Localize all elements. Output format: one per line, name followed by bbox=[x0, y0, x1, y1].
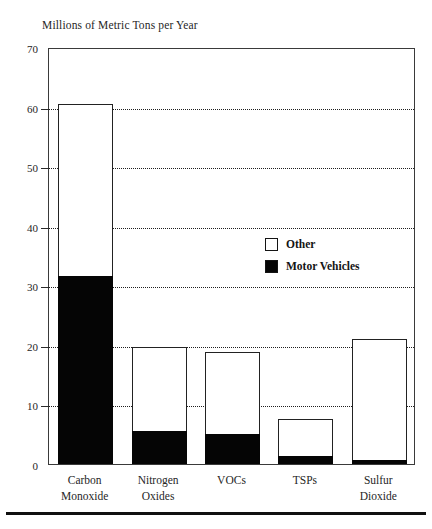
bar-carbon-monoxide bbox=[58, 104, 113, 464]
y-tick-label: 30 bbox=[27, 281, 38, 293]
x-axis-label: VOCs bbox=[195, 472, 268, 488]
y-tick-label: 10 bbox=[27, 400, 38, 412]
chart-legend: OtherMotor Vehicles bbox=[265, 233, 360, 277]
bar-tsps bbox=[278, 419, 333, 464]
bar-segment-motor-vehicles bbox=[58, 276, 113, 464]
legend-label: Motor Vehicles bbox=[286, 260, 360, 272]
x-axis-label-line: Carbon bbox=[48, 472, 121, 488]
y-tick-label: 70 bbox=[27, 43, 38, 55]
legend-label: Other bbox=[286, 238, 315, 250]
y-tick-label: 0 bbox=[33, 460, 39, 472]
y-tick-label: 60 bbox=[27, 103, 38, 115]
bar-sulfur-dioxide bbox=[352, 339, 407, 464]
y-tick-mark bbox=[41, 347, 49, 348]
legend-swatch-icon bbox=[265, 260, 278, 273]
legend-item: Other bbox=[265, 233, 360, 255]
x-axis-label: CarbonMonoxide bbox=[48, 472, 121, 504]
x-axis-label-line: Sulfur bbox=[342, 472, 415, 488]
bar-chart: Millions of Metric Tons per Year 0102030… bbox=[0, 0, 432, 529]
bar-segment-motor-vehicles bbox=[352, 460, 407, 464]
x-axis-label-line: Monoxide bbox=[48, 488, 121, 504]
y-tick-label: 50 bbox=[27, 162, 38, 174]
x-axis-label-line: VOCs bbox=[195, 472, 268, 488]
legend-swatch-icon bbox=[265, 238, 278, 251]
x-axis-label: TSPs bbox=[268, 472, 341, 488]
y-tick-label: 40 bbox=[27, 222, 38, 234]
footer-rule bbox=[6, 512, 426, 515]
chart-title: Millions of Metric Tons per Year bbox=[42, 19, 198, 31]
x-axis-label-line: Nitrogen bbox=[121, 472, 194, 488]
x-axis-label: SulfurDioxide bbox=[342, 472, 415, 504]
bar-segment-motor-vehicles bbox=[205, 434, 260, 464]
bar-vocs bbox=[205, 352, 260, 464]
x-axis-label: NitrogenOxides bbox=[121, 472, 194, 504]
y-tick-mark bbox=[41, 228, 49, 229]
y-tick-label: 20 bbox=[27, 341, 38, 353]
plot-area: 010203040506070 bbox=[48, 48, 415, 465]
y-tick-mark bbox=[41, 109, 49, 110]
legend-item: Motor Vehicles bbox=[265, 255, 360, 277]
y-tick-mark bbox=[41, 168, 49, 169]
bar-segment-motor-vehicles bbox=[132, 431, 187, 464]
x-axis-label-line: Dioxide bbox=[342, 488, 415, 504]
x-axis-label-line: Oxides bbox=[121, 488, 194, 504]
x-axis-label-line: TSPs bbox=[268, 472, 341, 488]
bar-segment-other bbox=[352, 339, 407, 464]
bar-nitrogen-oxides bbox=[132, 347, 187, 464]
bar-segment-motor-vehicles bbox=[278, 456, 333, 464]
y-tick-mark bbox=[41, 287, 49, 288]
y-tick-mark bbox=[41, 406, 49, 407]
